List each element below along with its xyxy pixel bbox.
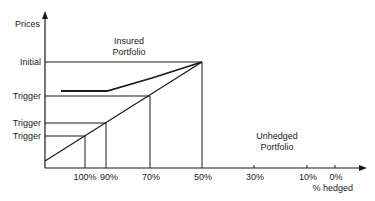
trigger-label-1: Trigger bbox=[13, 91, 41, 101]
x-axis-label: % hedged bbox=[312, 183, 353, 193]
x-tick-70: 70% bbox=[142, 172, 160, 182]
trigger-label-3: Trigger bbox=[13, 131, 41, 141]
diagram-canvas: Prices Initial Trigger Trigger Trigger I… bbox=[0, 0, 375, 201]
y-axis-label: Prices bbox=[15, 19, 41, 29]
x-tick-100: 100% bbox=[73, 172, 96, 182]
portfolio-insurance-diagram: Prices Initial Trigger Trigger Trigger I… bbox=[0, 0, 375, 201]
trigger-label-2: Trigger bbox=[13, 118, 41, 128]
x-axis-arrow-icon bbox=[359, 165, 367, 171]
x-tick-90: 90% bbox=[100, 172, 118, 182]
x-tick-50: 50% bbox=[194, 172, 212, 182]
unhedged-label-line1: Unhedged bbox=[256, 131, 298, 141]
insured-label-line2: Portfolio bbox=[112, 47, 145, 57]
x-tick-0: 0% bbox=[329, 172, 342, 182]
insured-label-line1: Insured bbox=[114, 36, 144, 46]
initial-label: Initial bbox=[20, 57, 41, 67]
x-tick-10: 10% bbox=[299, 172, 317, 182]
insured-portfolio-curve bbox=[61, 62, 202, 91]
unhedged-diagonal-line bbox=[45, 62, 202, 161]
unhedged-label-line2: Portfolio bbox=[260, 142, 293, 152]
y-axis-arrow-icon bbox=[42, 11, 48, 19]
x-tick-30: 30% bbox=[246, 172, 264, 182]
